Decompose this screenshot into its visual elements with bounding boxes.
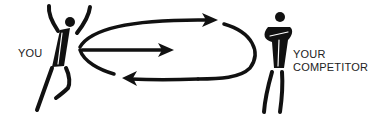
left-lower-arc-icon <box>80 50 114 74</box>
you-figure-icon <box>37 6 90 110</box>
top-arc-arrow-icon <box>80 20 210 47</box>
right-arc-icon <box>198 24 255 79</box>
bottom-arc-arrow-icon <box>130 79 198 80</box>
competitor-label-line2: COMPETITOR <box>293 61 368 74</box>
competitor-label-line1: YOUR <box>293 48 368 61</box>
competition-diagram: YOU YOUR COMPETITOR <box>0 0 391 127</box>
competitor-figure-icon <box>264 12 292 112</box>
competitor-label: YOUR COMPETITOR <box>293 48 368 74</box>
exchange-arrows <box>80 13 255 86</box>
you-label: YOU <box>18 47 42 60</box>
